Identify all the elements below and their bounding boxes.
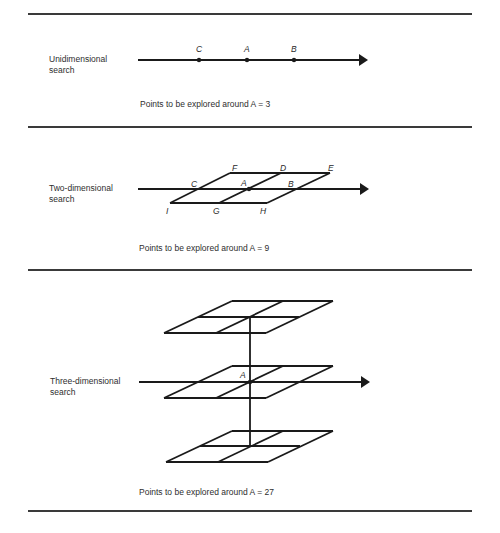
unidimensional-diagram [138,54,368,66]
point-label-a: A [243,44,250,54]
point-label-c: C [191,179,198,189]
point-label-b: B [291,44,297,54]
point-label-d: D [280,163,286,173]
arrow-head-icon [359,54,368,66]
point-label-g: G [213,206,220,216]
point-label-h: H [260,206,267,216]
point-a [247,187,251,191]
point-a [248,380,252,384]
point-label-a: A [240,178,247,188]
point-b [292,58,296,62]
point-a [245,58,249,62]
point-c [197,58,201,62]
top-grid [164,301,333,333]
point-label-b: B [288,179,294,189]
point-label-e: E [328,163,334,173]
point-label-a: A [239,370,246,380]
arrow-head-icon [360,183,369,195]
three-dimensional-diagram [139,301,370,462]
arrow-head-icon [361,376,370,388]
two-dimensional-diagram [138,173,369,203]
point-label-c: C [196,44,203,54]
search-diagram: C A B F D E C A B I G H A [0,0,500,533]
point-label-i: I [166,206,169,216]
point-label-f: F [232,163,238,173]
